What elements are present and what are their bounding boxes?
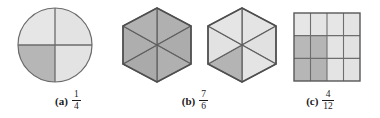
caption-b-denominator: 6 bbox=[200, 101, 207, 111]
grid-cell-r3c1-shaded bbox=[294, 58, 311, 81]
caption-b: (b) 7 6 bbox=[140, 90, 250, 111]
grid-cell-r2c3 bbox=[327, 36, 344, 59]
grid-cell-r2c2-shaded bbox=[311, 36, 328, 59]
caption-a-numerator: 1 bbox=[73, 90, 80, 100]
circle-quadrant-bottom-right bbox=[55, 45, 94, 84]
caption-c: (c) 4 12 bbox=[272, 90, 368, 111]
grid-cell-r2c4 bbox=[344, 36, 361, 59]
caption-a-fraction: 1 4 bbox=[72, 90, 81, 111]
grid-cell-r3c4 bbox=[344, 58, 361, 81]
caption-b-numerator: 7 bbox=[200, 90, 207, 100]
caption-c-denominator: 12 bbox=[322, 101, 334, 111]
figure-b-hexagon-2 bbox=[208, 8, 276, 82]
circle-quadrant-top-left bbox=[16, 6, 55, 45]
grid-cell-r2c1-shaded bbox=[294, 36, 311, 59]
caption-c-label: (c) bbox=[306, 95, 318, 107]
caption-a-denominator: 4 bbox=[73, 101, 80, 111]
circle-quadrant-bottom-left-shaded bbox=[16, 45, 55, 84]
caption-a: (a) 1 4 bbox=[22, 90, 114, 111]
captions: (a) 1 4 (b) 7 6 (c) 4 12 bbox=[0, 88, 380, 118]
figure-b-hexagon-1 bbox=[123, 8, 191, 82]
grid-cell-r1c1 bbox=[294, 13, 311, 36]
grid-cell-r1c4 bbox=[344, 13, 361, 36]
caption-a-label: (a) bbox=[55, 95, 68, 107]
caption-b-label: (b) bbox=[182, 95, 195, 107]
caption-b-fraction: 7 6 bbox=[199, 90, 208, 111]
caption-c-numerator: 4 bbox=[325, 90, 332, 100]
grid-cell-r1c2 bbox=[311, 13, 328, 36]
grid-cell-r3c2-shaded bbox=[311, 58, 328, 81]
circle-quadrant-top-right bbox=[55, 6, 94, 45]
figure-c-grid bbox=[294, 13, 360, 81]
caption-c-fraction: 4 12 bbox=[322, 90, 334, 111]
grid-cell-r3c3 bbox=[327, 58, 344, 81]
figure-a-circle bbox=[16, 6, 94, 84]
grid-cell-r1c3 bbox=[327, 13, 344, 36]
